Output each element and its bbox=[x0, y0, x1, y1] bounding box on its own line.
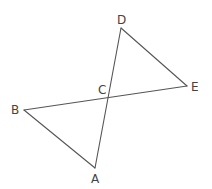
segment-AB bbox=[24, 110, 95, 168]
label-B: B bbox=[11, 103, 19, 117]
label-A: A bbox=[91, 172, 100, 186]
segments bbox=[24, 28, 187, 168]
geometry-diagram: A B C D E bbox=[0, 0, 212, 189]
labels: A B C D E bbox=[11, 13, 199, 186]
label-C: C bbox=[98, 83, 106, 97]
segment-DE bbox=[121, 28, 187, 86]
label-D: D bbox=[117, 13, 126, 27]
label-E: E bbox=[191, 80, 199, 94]
